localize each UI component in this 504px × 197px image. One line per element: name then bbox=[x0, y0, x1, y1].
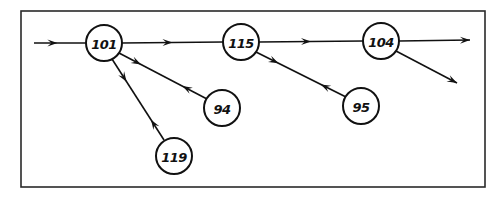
node-94: 94 bbox=[204, 90, 240, 126]
edge-101-119 bbox=[112, 59, 164, 140]
node-label: 94 bbox=[213, 102, 231, 117]
flow-diagram: 1011151049495119 bbox=[0, 0, 504, 197]
nodes-group: 1011151049495119 bbox=[86, 23, 399, 174]
node-label: 115 bbox=[228, 36, 254, 51]
node-119: 119 bbox=[156, 138, 192, 174]
arrowhead-icon bbox=[151, 120, 159, 130]
node-label: 95 bbox=[352, 100, 370, 115]
node-115: 115 bbox=[223, 24, 259, 60]
edge-104-out2 bbox=[396, 51, 457, 83]
edge-104-out bbox=[399, 40, 470, 41]
node-label: 101 bbox=[91, 37, 117, 52]
edge-115-95 bbox=[256, 52, 346, 97]
edge-101-94 bbox=[119, 53, 207, 99]
node-101: 101 bbox=[86, 25, 122, 61]
node-label: 119 bbox=[161, 150, 187, 165]
node-label: 104 bbox=[368, 35, 394, 50]
node-95: 95 bbox=[343, 88, 379, 124]
arrowhead-icon bbox=[118, 71, 126, 81]
node-104: 104 bbox=[363, 23, 399, 59]
